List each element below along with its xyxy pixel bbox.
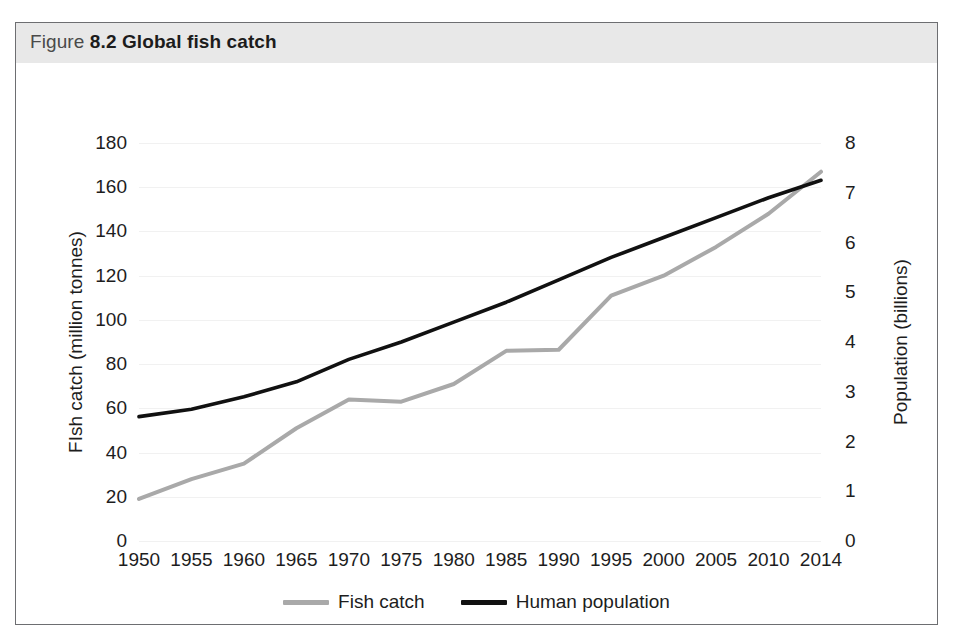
left-axis-tick-label: 160 bbox=[67, 176, 127, 198]
right-axis-title: Population (billions) bbox=[889, 143, 913, 541]
legend-item[interactable]: Human population bbox=[461, 591, 670, 613]
right-axis-tick-label: 7 bbox=[845, 182, 885, 204]
legend-label: Fish catch bbox=[338, 591, 425, 613]
x-axis-tick-label: 1990 bbox=[538, 549, 580, 571]
left-axis-tick-label: 100 bbox=[67, 309, 127, 331]
gridline bbox=[139, 541, 821, 542]
series-line-fish-catch bbox=[139, 172, 821, 499]
figure-title-prefix: Figure bbox=[30, 31, 84, 52]
x-axis-tick-label: 1980 bbox=[433, 549, 475, 571]
plot-canvas bbox=[139, 143, 821, 541]
x-axis-tick-label: 1955 bbox=[170, 549, 212, 571]
left-axis-tick-label: 120 bbox=[67, 265, 127, 287]
left-axis-tick-label: 140 bbox=[67, 220, 127, 242]
left-axis-tick-label: 20 bbox=[67, 486, 127, 508]
figure-frame: Figure 8.2 Global fish catch FIsh catch … bbox=[15, 22, 938, 625]
right-axis-tick-label: 5 bbox=[845, 281, 885, 303]
chart-legend: Fish catchHuman population bbox=[16, 591, 937, 613]
left-axis-title: FIsh catch (million tonnes) bbox=[64, 143, 88, 541]
x-axis-tick-label: 1970 bbox=[328, 549, 370, 571]
chart-plot-region: FIsh catch (million tonnes) Population (… bbox=[16, 63, 937, 626]
legend-label: Human population bbox=[516, 591, 670, 613]
x-axis-tick-label: 2014 bbox=[800, 549, 842, 571]
x-axis-tick-label: 1975 bbox=[380, 549, 422, 571]
left-axis-tick-label: 40 bbox=[67, 442, 127, 464]
right-axis-tick-label: 2 bbox=[845, 431, 885, 453]
left-axis-tick-label: 60 bbox=[67, 397, 127, 419]
series-line-human-population bbox=[139, 180, 821, 416]
figure-title-main: 8.2 Global fish catch bbox=[90, 31, 277, 52]
legend-line-swatch bbox=[283, 600, 329, 605]
legend-line-swatch bbox=[461, 600, 507, 605]
x-axis-tick-label: 2005 bbox=[695, 549, 737, 571]
right-axis-tick-label: 4 bbox=[845, 331, 885, 353]
right-axis-title-text: Population (billions) bbox=[890, 259, 912, 425]
x-axis-tick-label: 2000 bbox=[642, 549, 684, 571]
series-lines bbox=[139, 143, 821, 541]
x-axis-tick-label: 1985 bbox=[485, 549, 527, 571]
left-axis-tick-label: 180 bbox=[67, 132, 127, 154]
right-axis-tick-label: 6 bbox=[845, 232, 885, 254]
x-axis-tick-label: 1960 bbox=[223, 549, 265, 571]
figure-title: Figure 8.2 Global fish catch bbox=[30, 31, 277, 53]
right-axis-tick-label: 0 bbox=[845, 530, 885, 552]
right-axis-tick-label: 1 bbox=[845, 480, 885, 502]
left-axis-tick-label: 80 bbox=[67, 353, 127, 375]
x-axis-tick-label: 1950 bbox=[118, 549, 160, 571]
x-axis-tick-label: 1965 bbox=[275, 549, 317, 571]
legend-item[interactable]: Fish catch bbox=[283, 591, 425, 613]
right-axis-tick-label: 3 bbox=[845, 381, 885, 403]
right-axis-tick-label: 8 bbox=[845, 132, 885, 154]
x-axis-tick-label: 1995 bbox=[590, 549, 632, 571]
x-axis-tick-label: 2010 bbox=[747, 549, 789, 571]
